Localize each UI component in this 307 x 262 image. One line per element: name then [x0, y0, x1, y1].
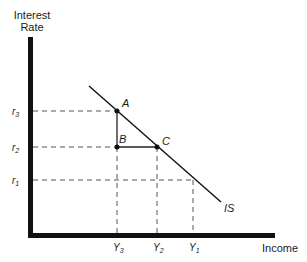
guide-lines [33, 111, 193, 233]
is-curve-diagram: Interest Rate Income IS A B C r3 r2 r1 Y… [0, 0, 307, 262]
r1-label: r1 [12, 175, 19, 187]
x-axis [28, 233, 275, 238]
point-c-marker [155, 145, 160, 150]
is-curve-label: IS [224, 202, 235, 214]
y2-label: Y2 [153, 242, 164, 254]
r2-label: r2 [12, 142, 19, 154]
point-a-marker [115, 109, 120, 114]
point-b-marker [115, 145, 120, 150]
point-b-label: B [119, 133, 126, 145]
y-axis [28, 37, 33, 238]
y3-label: Y3 [113, 242, 124, 254]
y-axis-title-line2: Rate [20, 21, 43, 33]
is-curve-line [89, 86, 221, 202]
x-axis-title: Income [262, 242, 298, 254]
y-axis-title-line1: Interest [14, 9, 51, 21]
point-c-label: C [162, 135, 170, 147]
y1-label: Y1 [189, 242, 200, 254]
r3-label: r3 [12, 106, 19, 118]
point-a-label: A [121, 97, 129, 109]
